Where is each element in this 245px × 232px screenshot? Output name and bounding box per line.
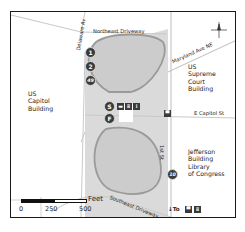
tour-marker-1[interactable]: 1 [85, 47, 96, 58]
metro-station-icon: ▀ [164, 110, 171, 117]
to-restrooms-icon: ⅱ [194, 206, 201, 213]
capitol-building-label: US Capitol Building [28, 90, 53, 112]
northeast-driveway-label: Northeast Driveway [93, 28, 145, 34]
scale-tick-500: 500 [79, 205, 91, 213]
map-frame: US Capitol Building US Supreme Court Bui… [10, 11, 236, 218]
to-direction-label: ↓To [168, 206, 180, 212]
scale-tick-250: 250 [45, 205, 57, 213]
e-capitol-st-label: E Capitol St [194, 110, 224, 116]
supreme-court-label: US Supreme Court Building [188, 63, 216, 93]
restrooms-icon: ⅱ [125, 103, 132, 110]
scale-unit: Feet [88, 195, 103, 203]
info-icon: i [133, 103, 140, 110]
tour-marker-s[interactable]: S [104, 101, 115, 112]
jefferson-building-label: Jefferson Building Library of Congress [188, 148, 225, 178]
bus-stop-icon: ▬ [117, 103, 124, 110]
to-metro-icon: ▀ [185, 206, 192, 213]
scale-tick-0: 0 [19, 205, 23, 213]
tour-marker-49[interactable]: 49 [85, 75, 96, 86]
tour-marker-10[interactable]: 10 [167, 169, 178, 180]
tour-marker-2[interactable]: 2 [85, 61, 96, 72]
tour-marker-f[interactable]: F [104, 113, 115, 124]
compass-icon [211, 22, 227, 38]
first-st-label: 1st St [159, 145, 165, 160]
